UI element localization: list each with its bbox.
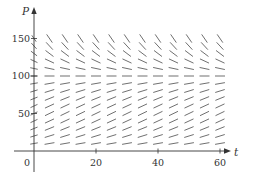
slope-segment	[200, 104, 208, 108]
slope-segment	[216, 90, 225, 93]
slope-segment	[62, 43, 68, 50]
x-axis-arrow-icon	[224, 148, 231, 153]
slope-segment	[185, 68, 194, 70]
slope-segment	[216, 127, 225, 130]
slope-segment	[45, 119, 53, 123]
slope-segment	[186, 43, 192, 50]
slope-segment	[109, 35, 114, 43]
slope-segment	[169, 127, 178, 130]
slope-segment	[122, 83, 131, 85]
slope-segment	[200, 68, 209, 70]
slope-segment	[123, 59, 131, 63]
slope-segment	[169, 83, 178, 85]
slope-segment	[60, 83, 69, 85]
slope-segment	[184, 143, 193, 145]
slope-segment	[153, 143, 162, 145]
slope-segment	[107, 90, 116, 93]
slope-segment	[61, 135, 70, 138]
slope-segment	[185, 59, 193, 63]
slope-segment	[138, 104, 146, 108]
slope-segment	[92, 127, 101, 130]
slope-segment	[45, 83, 54, 85]
slope-segment	[45, 127, 54, 130]
slope-segment	[153, 83, 162, 85]
slope-segment	[185, 104, 193, 108]
slope-segment	[76, 135, 85, 138]
slope-field-chart: t P 204060 50100150 0	[0, 0, 256, 180]
slope-segment	[186, 35, 191, 43]
x-tick-label: 60	[214, 157, 226, 168]
slope-segment	[139, 43, 145, 50]
slope-segment	[61, 59, 69, 63]
slope-segment	[138, 68, 147, 70]
slope-segment	[154, 119, 162, 123]
slope-segment	[185, 119, 193, 123]
y-axis-arrow-icon	[31, 7, 36, 14]
slope-segment	[215, 143, 224, 145]
slope-segment	[45, 104, 53, 108]
slope-segment	[107, 143, 116, 145]
slope-segment	[60, 143, 69, 145]
slope-segment	[92, 97, 101, 100]
slope-segment	[123, 51, 130, 57]
slope-segment	[61, 51, 68, 57]
slope-segment	[107, 127, 116, 130]
slope-segment	[61, 112, 69, 116]
slope-segment	[200, 127, 209, 130]
slope-segment	[169, 90, 178, 93]
slope-segment	[92, 59, 100, 63]
x-tick-label: 20	[90, 157, 102, 168]
slope-segment	[216, 119, 224, 123]
slope-segment	[184, 83, 193, 85]
slope-segment	[108, 51, 115, 57]
slope-segment	[61, 104, 69, 108]
y-axis-label: P	[21, 5, 30, 17]
slope-segment	[140, 35, 145, 43]
slope-segment	[169, 119, 177, 123]
slope-segment	[215, 83, 224, 85]
slope-segment	[107, 104, 115, 108]
slope-segment	[154, 51, 161, 57]
origin-label: 0	[24, 157, 30, 168]
slope-segment	[123, 104, 131, 108]
slope-segment	[154, 104, 162, 108]
slope-segment	[77, 43, 83, 50]
slope-segment	[123, 97, 132, 100]
slope-segment	[61, 119, 69, 123]
slope-segment	[123, 135, 132, 138]
slope-segment	[61, 90, 70, 93]
slope-segment	[185, 51, 192, 57]
slope-segment	[170, 51, 177, 57]
slope-segment	[171, 35, 176, 43]
slope-segment	[92, 68, 101, 70]
slope-segment	[92, 51, 99, 57]
x-axis: t	[14, 146, 239, 158]
slope-segment	[92, 112, 100, 116]
slope-segment	[107, 119, 115, 123]
slope-segment	[216, 59, 224, 63]
slope-segment	[217, 43, 223, 50]
slope-segment	[61, 127, 70, 130]
slope-segment	[138, 83, 147, 85]
x-axis-label: t	[234, 146, 239, 158]
slope-segments	[31, 35, 225, 145]
slope-segment	[62, 35, 67, 43]
slope-segment	[76, 119, 84, 123]
slope-segment	[45, 112, 53, 116]
slope-segment	[76, 127, 85, 130]
slope-segment	[202, 35, 207, 43]
slope-segment	[138, 112, 146, 116]
slope-segment	[45, 97, 54, 100]
slope-segment	[45, 59, 53, 63]
y-axis: P	[21, 5, 37, 172]
slope-segment	[185, 112, 193, 116]
slope-segment	[154, 90, 163, 93]
slope-segment	[138, 127, 147, 130]
slope-segment	[169, 68, 178, 70]
slope-segment	[200, 119, 208, 123]
slope-segment	[139, 51, 146, 57]
y-tick-label: 150	[12, 33, 30, 44]
slope-segment	[155, 43, 161, 50]
slope-segment	[107, 97, 116, 100]
slope-segment	[216, 68, 225, 70]
